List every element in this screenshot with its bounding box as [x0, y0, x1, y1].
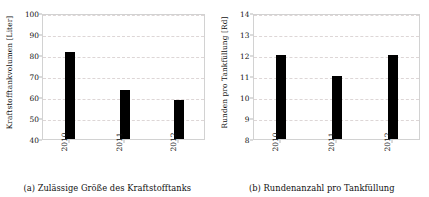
bar [332, 76, 342, 139]
y-tick-label: 80 [30, 52, 39, 61]
y-tick-label: 70 [30, 73, 39, 82]
x-tick-label: 2010 [271, 133, 280, 152]
x-tick-label: 2011 [114, 133, 123, 152]
x-tick: 2010 [271, 142, 290, 151]
gridline [43, 36, 204, 37]
x-axis-ticks-a: 201020112012 [42, 140, 205, 170]
subfigure-b: Runden pro Tankfüllung [Rd] 891011121314… [215, 0, 429, 197]
y-tick-label: 12 [240, 52, 249, 61]
y-axis-ticks-b: 891011121314 [225, 14, 253, 140]
chart-b: Runden pro Tankfüllung [Rd] 891011121314… [215, 0, 429, 168]
caption-a: (a) Zulässige Größe des Kraftstofftanks [0, 183, 215, 193]
gridline [254, 36, 419, 37]
subfigure-a: Kraftstofftankvolumen [Liter] 4050607080… [0, 0, 215, 197]
x-tick-label: 2011 [327, 133, 336, 152]
x-tick-label: 2012 [382, 133, 391, 152]
gridline [43, 15, 204, 16]
y-tick-label: 50 [30, 115, 39, 124]
y-tick-label: 14 [240, 10, 249, 19]
x-tick: 2011 [114, 142, 133, 151]
y-tick-label: 60 [30, 94, 39, 103]
y-tick-label: 40 [30, 136, 39, 145]
y-axis-ticks-a: 405060708090100 [14, 14, 42, 140]
x-tick-label: 2010 [60, 133, 69, 152]
bar [120, 90, 130, 139]
bar [65, 52, 75, 139]
plot-area-a [42, 14, 205, 140]
y-tick-label: 100 [25, 10, 39, 19]
x-axis-ticks-b: 201020112012 [253, 140, 420, 170]
y-tick-label: 10 [240, 94, 249, 103]
bar [276, 55, 286, 139]
figure-row: Kraftstofftankvolumen [Liter] 4050607080… [0, 0, 429, 197]
x-tick-label: 2012 [168, 133, 177, 152]
caption-b: (b) Rundenanzahl pro Tankfüllung [215, 183, 429, 193]
y-tick-label: 13 [240, 31, 249, 40]
chart-a: Kraftstofftankvolumen [Liter] 4050607080… [0, 0, 215, 168]
x-tick: 2012 [382, 142, 401, 151]
gridline [254, 15, 419, 16]
x-tick: 2011 [327, 142, 346, 151]
plot-area-b [253, 14, 420, 140]
x-tick: 2010 [60, 142, 79, 151]
bar [388, 55, 398, 139]
x-tick: 2012 [168, 142, 187, 151]
y-tick-label: 11 [240, 73, 249, 82]
y-tick-label: 90 [30, 31, 39, 40]
